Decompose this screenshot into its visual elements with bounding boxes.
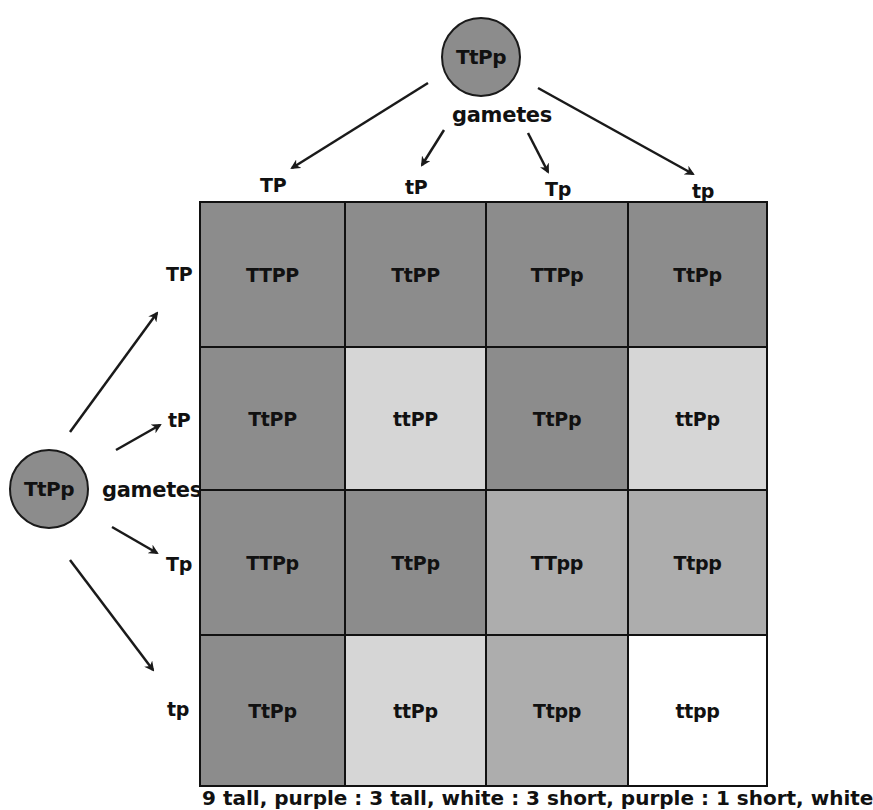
arrow-left-Tp — [112, 527, 157, 553]
punnett-cell: TtPp — [629, 203, 766, 348]
arrow-left-tP — [116, 425, 160, 450]
arrow-top-Tp — [528, 133, 548, 172]
punnett-cell: ttPp — [629, 348, 766, 491]
punnett-cell: TtPP — [346, 203, 487, 348]
punnett-square: TTPPTtPPTTPpTtPpTtPPttPPTtPpttPpTTPpTtPp… — [199, 201, 768, 787]
punnett-cell: ttPP — [346, 348, 487, 491]
punnett-cell: TTPp — [201, 491, 346, 636]
left-parent-circle: TtPp — [9, 449, 89, 529]
column-gamete-2: tP — [405, 176, 427, 198]
left-gametes-label: gametes — [102, 478, 202, 502]
arrow-top-TP — [292, 83, 428, 168]
row-gamete-2: tP — [168, 409, 190, 431]
row-gamete-3: Tp — [166, 553, 192, 575]
punnett-cell: Ttpp — [487, 636, 629, 785]
column-gamete-1: TP — [260, 174, 286, 196]
punnett-cell: TTPp — [487, 203, 629, 348]
column-gamete-4: tp — [692, 180, 714, 202]
punnett-cell: TtPp — [201, 636, 346, 785]
top-gametes-label: gametes — [452, 103, 552, 127]
column-gamete-3: Tp — [545, 178, 571, 200]
top-parent-circle: TtPp — [441, 17, 521, 97]
punnett-cell: TTPP — [201, 203, 346, 348]
row-gamete-4: tp — [167, 698, 189, 720]
arrow-top-tp — [538, 88, 693, 174]
arrow-left-TP — [70, 313, 157, 432]
arrow-left-tp — [70, 560, 153, 670]
arrow-top-tP — [422, 130, 444, 165]
row-gamete-1: TP — [166, 263, 192, 285]
ratio-caption: 9 tall, purple : 3 tall, white : 3 short… — [202, 786, 873, 810]
punnett-cell: Ttpp — [629, 491, 766, 636]
punnett-cell: ttPp — [346, 636, 487, 785]
punnett-cell: TtPP — [201, 348, 346, 491]
punnett-cell: TtPp — [346, 491, 487, 636]
punnett-cell: TTpp — [487, 491, 629, 636]
punnett-cell: TtPp — [487, 348, 629, 491]
punnett-cell: ttpp — [629, 636, 766, 785]
